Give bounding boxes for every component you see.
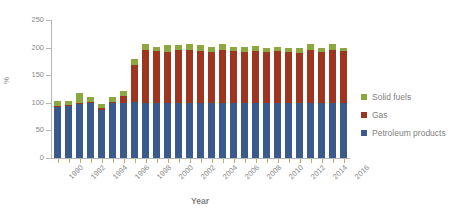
bar-segment-petroleum-products xyxy=(98,110,105,158)
bar-segment-gas xyxy=(263,52,270,103)
bar-column xyxy=(54,101,61,158)
bar-segment-petroleum-products xyxy=(340,103,347,158)
x-tick-label: 2002 xyxy=(198,163,216,181)
bar-segment-gas xyxy=(318,52,325,103)
bar-column xyxy=(252,46,259,158)
x-tick-label: 1994 xyxy=(110,163,128,181)
x-tick-mark xyxy=(212,159,213,163)
bar-segment-solid-fuels xyxy=(142,44,149,51)
x-tick-label: 2016 xyxy=(352,163,370,181)
bar-segment-petroleum-products xyxy=(329,103,336,158)
x-tick-mark xyxy=(245,159,246,163)
bar-column xyxy=(65,101,72,158)
y-tick-mark xyxy=(46,48,51,49)
y-tick-label: 250 xyxy=(18,16,44,24)
y-tick-label: 0 xyxy=(18,154,44,162)
bar-segment-gas xyxy=(175,50,182,102)
x-tick-label: 2000 xyxy=(176,163,194,181)
x-tick-mark xyxy=(344,159,345,163)
legend-item[interactable]: Petroleum products xyxy=(361,124,456,142)
bar-column xyxy=(296,48,303,158)
bar-column xyxy=(219,44,226,158)
bar-segment-petroleum-products xyxy=(263,103,270,158)
bar-column xyxy=(274,47,281,158)
y-axis-tick-labels: 050100150200250 xyxy=(12,0,44,214)
bar-segment-gas xyxy=(241,52,248,103)
bar-column xyxy=(329,44,336,158)
bar-segment-petroleum-products xyxy=(153,103,160,158)
bar-segment-petroleum-products xyxy=(186,103,193,158)
bar-segment-gas xyxy=(208,52,215,103)
x-tick-mark xyxy=(146,159,147,163)
bar-segment-petroleum-products xyxy=(252,103,259,158)
bar-segment-gas xyxy=(142,50,149,102)
stacked-bar-chart: % 050100150200250 1990199219941996199820… xyxy=(0,0,458,214)
bar-column xyxy=(208,47,215,158)
bar-segment-petroleum-products xyxy=(142,103,149,158)
y-tick-label: 200 xyxy=(18,44,44,52)
bar-column xyxy=(307,44,314,158)
x-tick-label: 2010 xyxy=(286,163,304,181)
x-tick-label: 2012 xyxy=(308,163,326,181)
bar-segment-gas xyxy=(340,51,347,103)
legend-label: Petroleum products xyxy=(372,128,446,138)
x-tick-mark xyxy=(91,159,92,163)
y-tick-label: 100 xyxy=(18,99,44,107)
bar-segment-gas xyxy=(285,52,292,103)
bar-segment-gas xyxy=(197,51,204,102)
bar-segment-solid-fuels xyxy=(186,44,193,51)
x-tick-mark xyxy=(234,159,235,163)
y-tick-mark xyxy=(46,158,51,159)
bar-segment-petroleum-products xyxy=(219,103,226,158)
bar-segment-petroleum-products xyxy=(230,103,237,158)
bar-column xyxy=(76,93,83,158)
legend-item[interactable]: Gas xyxy=(361,106,456,124)
x-tick-mark xyxy=(256,159,257,163)
x-tick-mark xyxy=(135,159,136,163)
bar-segment-gas xyxy=(329,50,336,103)
x-tick-mark xyxy=(69,159,70,163)
y-tick-label: 150 xyxy=(18,71,44,79)
bar-column xyxy=(318,48,325,158)
bar-segment-petroleum-products xyxy=(296,103,303,158)
bar-column xyxy=(285,48,292,158)
x-tick-mark xyxy=(278,159,279,163)
x-tick-mark xyxy=(168,159,169,163)
bar-segment-petroleum-products xyxy=(175,103,182,158)
x-tick-mark xyxy=(223,159,224,163)
bar-segment-gas xyxy=(307,50,314,103)
bar-segment-gas xyxy=(131,65,138,103)
y-axis-title: % xyxy=(2,77,11,84)
bar-segment-gas xyxy=(186,50,193,102)
x-tick-mark xyxy=(289,159,290,163)
x-tick-mark xyxy=(190,159,191,163)
bar-segment-solid-fuels xyxy=(76,93,83,102)
x-tick-mark xyxy=(311,159,312,163)
y-tick-label: 50 xyxy=(18,126,44,134)
x-tick-mark xyxy=(201,159,202,163)
bar-column xyxy=(230,47,237,158)
y-tick-mark xyxy=(46,20,51,21)
legend-item[interactable]: Solid fuels xyxy=(361,88,456,106)
bar-segment-petroleum-products xyxy=(318,103,325,158)
bar-segment-petroleum-products xyxy=(307,103,314,158)
y-tick-mark xyxy=(46,130,51,131)
bar-column xyxy=(175,45,182,158)
bar-segment-gas xyxy=(153,51,160,103)
bar-segment-petroleum-products xyxy=(197,103,204,158)
bar-segment-petroleum-products xyxy=(120,103,127,158)
bar-segment-gas xyxy=(120,96,127,103)
bar-segment-gas xyxy=(252,51,259,103)
x-tick-mark xyxy=(179,159,180,163)
x-tick-mark xyxy=(102,159,103,163)
bar-column xyxy=(340,48,347,158)
bar-column xyxy=(120,91,127,158)
bar-segment-petroleum-products xyxy=(274,103,281,158)
bar-segment-petroleum-products xyxy=(164,103,171,158)
bar-segment-gas xyxy=(274,51,281,102)
bar-segment-gas xyxy=(164,52,171,103)
bar-segment-gas xyxy=(219,50,226,102)
chart-legend: Solid fuelsGasPetroleum products xyxy=(361,88,456,142)
x-tick-mark xyxy=(113,159,114,163)
bar-column xyxy=(109,97,116,158)
